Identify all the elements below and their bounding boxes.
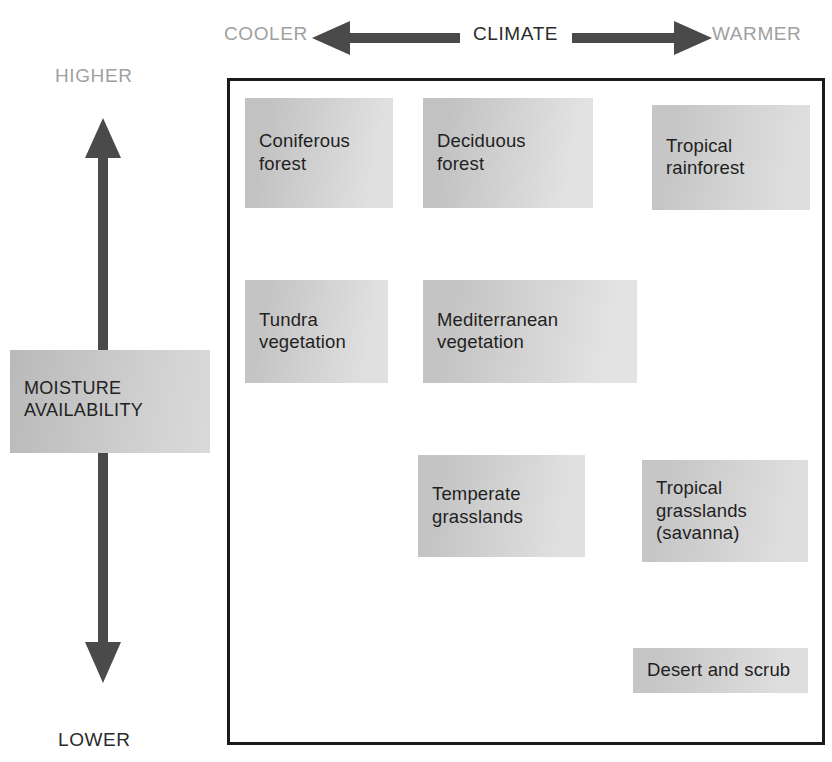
biome-box: Deciduous forest [423,98,593,208]
biome-label: Coniferous forest [259,130,350,176]
arrow-right-icon [572,20,712,60]
biome-box: Temperate grasslands [418,455,585,557]
biome-label: Tropical rainforest [666,135,745,181]
biome-box: Desert and scrub [633,648,808,693]
biome-label: Desert and scrub [647,659,790,682]
biome-label: Temperate grasslands [432,483,523,529]
moisture-availability-label-box: MOISTURE AVAILABILITY [10,350,210,453]
axis-label-warmer: WARMER [712,24,801,43]
axis-label-lower: LOWER [58,730,131,749]
biome-box: Tundra vegetation [245,280,388,383]
axis-label-cooler: COOLER [224,24,308,43]
axis-label-climate: CLIMATE [473,24,558,43]
biome-box: Tropical rainforest [652,105,810,210]
moisture-availability-label: MOISTURE AVAILABILITY [24,378,143,422]
biome-label: Tropical grasslands (savanna) [656,477,747,546]
biome-label: Deciduous forest [437,130,526,176]
biome-box: Mediterranean vegetation [423,280,637,383]
biome-box: Tropical grasslands (savanna) [642,460,808,562]
diagram-canvas: COOLER CLIMATE WARMER HIGHER MOISTURE AV… [0,0,832,762]
biome-label: Mediterranean vegetation [437,309,558,355]
chart-plot-frame: Coniferous forestDeciduous forestTropica… [227,78,825,745]
biome-label: Tundra vegetation [259,309,346,355]
biome-box: Coniferous forest [245,98,393,208]
axis-label-higher: HIGHER [55,66,133,85]
arrow-left-icon [312,20,460,60]
